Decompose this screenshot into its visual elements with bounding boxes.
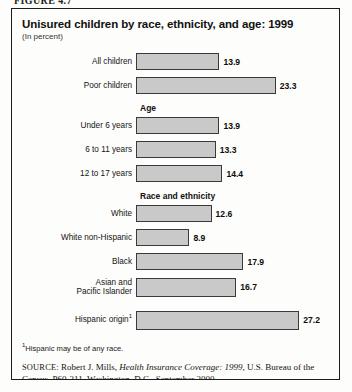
chart-title: Unisured children by race, ethnicity, an… bbox=[22, 18, 329, 31]
bar-value-label: 13.9 bbox=[223, 121, 240, 131]
source-label: SOURCE: bbox=[22, 363, 59, 372]
bar bbox=[136, 253, 243, 270]
bar-area: 12.6 bbox=[136, 203, 329, 224]
bar-area: 13.9 bbox=[136, 115, 329, 136]
bar-value-label: 8.9 bbox=[193, 233, 205, 243]
bar-area: 23.3 bbox=[136, 75, 329, 96]
bar-row-label: Under 6 years bbox=[22, 121, 136, 130]
bar-area: 13.9 bbox=[136, 51, 329, 72]
bar-row-label: 6 to 11 years bbox=[22, 145, 136, 154]
bar bbox=[136, 165, 222, 182]
bar-area: 17.9 bbox=[136, 251, 329, 272]
bar bbox=[136, 141, 216, 158]
chart-subtitle: (In percent) bbox=[22, 33, 329, 42]
bar-value-label: 27.2 bbox=[303, 315, 320, 325]
bar-area: 8.9 bbox=[136, 227, 329, 248]
group-header: Age bbox=[140, 103, 329, 113]
bar-value-label: 13.9 bbox=[223, 57, 240, 67]
bar-row: All children13.9 bbox=[22, 51, 329, 72]
bar-row: White12.6 bbox=[22, 203, 329, 224]
bar bbox=[136, 117, 219, 134]
bar-row-label: Black bbox=[22, 257, 136, 266]
bar-value-label: 23.3 bbox=[280, 81, 297, 91]
bar-area: 13.3 bbox=[136, 139, 329, 160]
footnote-text: Hispanic may be of any race. bbox=[25, 344, 123, 353]
bar-row: Asian andPacific Islander16.7 bbox=[22, 275, 329, 299]
bar-area: 27.2 bbox=[136, 308, 329, 332]
bar-value-label: 17.9 bbox=[247, 257, 264, 267]
bar-value-label: 12.6 bbox=[216, 209, 233, 219]
bar bbox=[136, 229, 189, 246]
bar-row: Hispanic origin127.2 bbox=[22, 308, 329, 332]
source-citation: SOURCE: Robert J. Mills, Health Insuranc… bbox=[22, 362, 329, 380]
bar-label-superscript: 1 bbox=[129, 314, 132, 320]
footnote: 1Hispanic may be of any race. bbox=[22, 344, 329, 353]
source-author: Robert J. Mills, bbox=[61, 362, 117, 372]
figure-number: FIGURE 4.7 bbox=[14, 0, 72, 6]
bar-row-label: Asian andPacific Islander bbox=[22, 278, 136, 296]
bar-chart-plot: All children13.9Poor children23.3AgeUnde… bbox=[22, 51, 329, 332]
figure-box: Unisured children by race, ethnicity, an… bbox=[11, 8, 340, 380]
bar-row: Poor children23.3 bbox=[22, 75, 329, 96]
figure-inner: Unisured children by race, ethnicity, an… bbox=[12, 9, 339, 380]
bar-row: Black17.9 bbox=[22, 251, 329, 272]
bar-value-label: 16.7 bbox=[240, 282, 257, 292]
bar bbox=[136, 278, 236, 297]
bar-area: 16.7 bbox=[136, 275, 329, 299]
bar-row-label: Poor children bbox=[22, 81, 136, 90]
bar bbox=[136, 53, 219, 70]
bar-row-label: White bbox=[22, 209, 136, 218]
bar-value-label: 14.4 bbox=[226, 169, 243, 179]
bar bbox=[136, 77, 276, 94]
bar-area: 14.4 bbox=[136, 163, 329, 184]
bar-row: White non-Hispanic8.9 bbox=[22, 227, 329, 248]
bar bbox=[136, 205, 212, 222]
group-header: Race and ethnicity bbox=[140, 191, 329, 201]
bar-row: 6 to 11 years13.3 bbox=[22, 139, 329, 160]
source-publication: Health Insurance Coverage: 1999 bbox=[119, 362, 242, 372]
bar-row-label: White non-Hispanic bbox=[22, 233, 136, 242]
bar-row-label: Hispanic origin1 bbox=[22, 315, 136, 324]
bar-row-label: All children bbox=[22, 57, 136, 66]
bar-row: Under 6 years13.9 bbox=[22, 115, 329, 136]
bar bbox=[136, 311, 299, 330]
bar-value-label: 13.3 bbox=[220, 145, 237, 155]
bar-row-label: 12 to 17 years bbox=[22, 169, 136, 178]
bar-row: 12 to 17 years14.4 bbox=[22, 163, 329, 184]
